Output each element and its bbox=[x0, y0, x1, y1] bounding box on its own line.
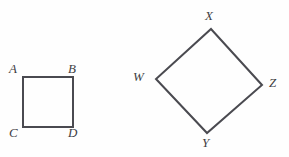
vertex-label-z: Z bbox=[269, 76, 276, 89]
figure-canvas bbox=[0, 0, 289, 157]
vertex-label-b: B bbox=[68, 62, 76, 75]
vertex-label-x: X bbox=[205, 9, 213, 22]
square-abcd-shape bbox=[23, 77, 73, 127]
geometry-figure: A B C D W X Y Z bbox=[0, 0, 289, 157]
vertex-label-d: D bbox=[68, 126, 77, 139]
vertex-label-y: Y bbox=[202, 136, 209, 149]
quadrilateral-wxyz-shape bbox=[156, 29, 262, 133]
vertex-label-w: W bbox=[133, 70, 144, 83]
vertex-label-a: A bbox=[9, 62, 17, 75]
vertex-label-c: C bbox=[9, 126, 18, 139]
